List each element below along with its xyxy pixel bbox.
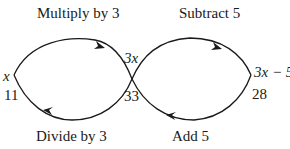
arc-subtract-5 [132, 38, 251, 79]
arc-divide-by-3 [14, 75, 132, 120]
node-input-x: x [3, 69, 10, 84]
node-input-28: 28 [252, 87, 267, 102]
node-middle-33: 33 [124, 89, 139, 104]
operation-divide-by-3: Divide by 3 [36, 129, 107, 144]
arc-add-5 [132, 75, 251, 120]
operation-add-5: Add 5 [172, 129, 209, 144]
operation-multiply-by-3: Multiply by 3 [37, 6, 120, 21]
arrow-left-icon [166, 112, 176, 120]
operation-subtract-5: Subtract 5 [179, 6, 240, 21]
node-output-11: 11 [4, 88, 18, 103]
node-output-3x-minus-5: 3x − 5 [254, 65, 290, 80]
arc-multiply-by-3 [14, 39, 132, 79]
node-middle-3x: 3x [124, 51, 138, 66]
figure-eight-flow-diagram [0, 0, 290, 149]
